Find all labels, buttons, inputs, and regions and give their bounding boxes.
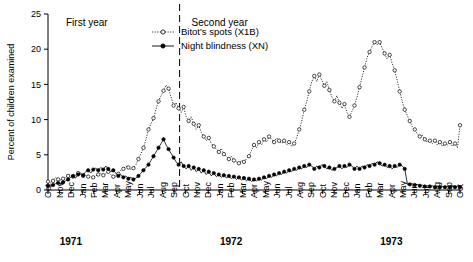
series-marker (172, 104, 175, 107)
series-marker (423, 185, 426, 188)
x-tick-label: Feb (89, 182, 99, 198)
series-marker (443, 142, 446, 145)
series-marker (358, 167, 361, 170)
series-marker (363, 66, 366, 69)
series-marker (308, 90, 311, 93)
series-marker (458, 124, 461, 127)
x-tick-label: Mar (375, 182, 385, 198)
x-tick-label: Sep (306, 182, 316, 198)
x-tick-label: Jan (352, 183, 362, 198)
series-marker (192, 122, 195, 125)
x-tick-label: Nov (329, 181, 339, 198)
series-marker (262, 138, 265, 141)
series-marker (227, 157, 230, 160)
series-marker (418, 184, 421, 187)
series-marker (398, 90, 401, 93)
series-marker (66, 178, 69, 181)
series-marker (187, 119, 190, 122)
x-tick-label: Dec (203, 181, 213, 198)
series-marker (112, 169, 115, 172)
legend-marker-open-circle (161, 30, 165, 34)
series-marker (373, 40, 376, 43)
series-marker (81, 174, 84, 177)
series-marker (127, 166, 130, 169)
series-marker (348, 115, 351, 118)
annotation-first-year: First year (66, 17, 108, 28)
series-marker (393, 69, 396, 72)
x-tick-label: Dec (66, 181, 76, 198)
chart-root: 0510152025Percent of children examinedOc… (0, 0, 473, 262)
series-marker (378, 162, 381, 165)
x-tick-label: Dec (341, 181, 351, 198)
series-marker (197, 124, 200, 127)
series-marker (348, 163, 351, 166)
x-tick-label: Jan (215, 183, 225, 198)
series-marker (102, 174, 105, 177)
series-marker (443, 185, 446, 188)
series-marker (222, 174, 225, 177)
y-tick-label: 15 (31, 80, 41, 90)
y-tick-label: 0 (36, 185, 41, 195)
series-marker (157, 146, 160, 149)
series-marker (117, 174, 120, 177)
series-marker (418, 135, 421, 138)
series-marker (448, 140, 451, 143)
series-marker (343, 102, 346, 105)
series-marker (252, 143, 255, 146)
series-marker (162, 89, 165, 92)
series-marker (227, 174, 230, 177)
series-marker (197, 167, 200, 170)
series-marker (71, 174, 74, 177)
x-tick-label: Jan (78, 183, 88, 198)
series-marker (282, 139, 285, 142)
series-marker (408, 119, 411, 122)
series-marker (262, 176, 265, 179)
x-tick-label: May (123, 180, 133, 198)
series-marker (127, 177, 130, 180)
x-tick-label: Jun (135, 183, 145, 198)
x-tick-label: Aug (295, 182, 305, 198)
series-marker (147, 163, 150, 166)
series-marker (92, 168, 95, 171)
series-marker (298, 128, 301, 131)
series-marker (277, 171, 280, 174)
series-marker (388, 53, 391, 56)
series-marker (323, 164, 326, 167)
series-marker (122, 176, 125, 179)
vitamin-a-deficiency-chart: 0510152025Percent of children examinedOc… (0, 0, 473, 262)
x-tick-label: Apr (112, 184, 122, 198)
x-tick-label: May (398, 180, 408, 198)
y-tick-label: 25 (31, 9, 41, 19)
series-marker (242, 176, 245, 179)
series-marker (453, 142, 456, 145)
series-marker (328, 166, 331, 169)
x-tick-label: Feb (364, 182, 374, 198)
series-marker (438, 140, 441, 143)
x-tick-label: Jun (272, 183, 282, 198)
legend-label-0: Bitot's spots (X1B) (181, 26, 259, 37)
series-marker (237, 162, 240, 165)
series-marker (277, 139, 280, 142)
series-marker (303, 108, 306, 111)
series-marker (232, 159, 235, 162)
series-marker (142, 146, 145, 149)
series-marker (398, 163, 401, 166)
series-marker (267, 174, 270, 177)
series-marker (272, 140, 275, 143)
series-marker (413, 128, 416, 131)
series-marker (343, 164, 346, 167)
series-marker (428, 185, 431, 188)
x-tick-label: May (261, 180, 271, 198)
x-tick-label: Apr (249, 184, 259, 198)
x-tick-label: Sep (169, 182, 179, 198)
series-marker (76, 173, 79, 176)
series-marker (252, 178, 255, 181)
series-marker (207, 170, 210, 173)
x-tick-label: Nov (192, 181, 202, 198)
x-tick-label: Aug (158, 182, 168, 198)
series-marker (303, 164, 306, 167)
series-marker (383, 163, 386, 166)
series-marker (287, 140, 290, 143)
series-marker (313, 74, 316, 77)
series-marker (423, 138, 426, 141)
